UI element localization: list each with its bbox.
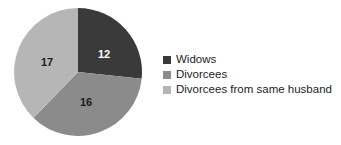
legend-item-widows[interactable]: Widows bbox=[163, 52, 338, 67]
pie-slice-widows[interactable] bbox=[78, 8, 142, 79]
legend-item-divorcees-same-husband[interactable]: Divorcees from same husband bbox=[163, 82, 338, 97]
pie-label-widows: 12 bbox=[98, 48, 110, 60]
pie-label-divorcees-same-husband: 17 bbox=[41, 56, 53, 68]
legend-swatch-icon bbox=[163, 71, 171, 79]
pie-chart-screenshot: 12 16 17 Widows Divorcees Divorcees from… bbox=[0, 0, 341, 145]
legend-swatch-icon bbox=[163, 86, 171, 94]
legend-swatch-icon bbox=[163, 56, 171, 64]
legend-item-label: Divorcees bbox=[176, 67, 227, 82]
legend-item-divorcees[interactable]: Divorcees bbox=[163, 67, 338, 82]
pie-chart: 12 16 17 bbox=[14, 8, 142, 136]
legend-item-label: Divorcees from same husband bbox=[176, 82, 332, 97]
pie-label-divorcees: 16 bbox=[80, 96, 92, 108]
pie-chart-svg: 12 16 17 bbox=[14, 8, 142, 136]
legend: Widows Divorcees Divorcees from same hus… bbox=[163, 52, 338, 97]
legend-item-label: Widows bbox=[176, 52, 216, 67]
